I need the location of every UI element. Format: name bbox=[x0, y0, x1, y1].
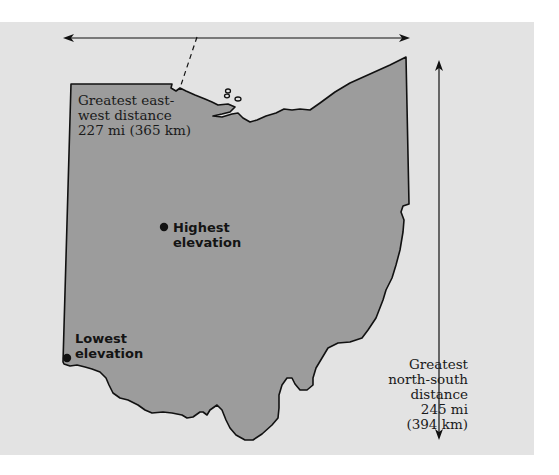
island-shape bbox=[225, 94, 230, 98]
lowest-label-line: Lowest bbox=[75, 331, 143, 346]
east-west-label-line: 227 mi (365 km) bbox=[78, 123, 191, 138]
island-shape bbox=[226, 89, 231, 93]
east-west-label-line: west distance bbox=[78, 108, 191, 123]
lowest-elevation-marker bbox=[63, 354, 71, 362]
east-west-arrow bbox=[63, 34, 410, 42]
north-south-label-line: 245 mi bbox=[388, 402, 468, 417]
dashed-boundary-line bbox=[180, 37, 197, 88]
north-south-label-line: Greatest bbox=[388, 357, 468, 372]
east-west-label-line: Greatest east- bbox=[78, 93, 191, 108]
ohio-map bbox=[0, 0, 559, 475]
highest-elevation-label: Highest elevation bbox=[173, 220, 241, 250]
north-south-label-line: (394 km) bbox=[388, 417, 468, 432]
island-shape bbox=[235, 97, 241, 101]
highest-label-line: elevation bbox=[173, 235, 241, 250]
highest-elevation-marker bbox=[160, 223, 168, 231]
north-south-label-line: distance bbox=[388, 387, 468, 402]
east-west-distance-label: Greatest east- west distance 227 mi (365… bbox=[78, 93, 191, 138]
lowest-label-line: elevation bbox=[75, 346, 143, 361]
north-south-distance-label: Greatest north-south distance 245 mi (39… bbox=[388, 357, 468, 432]
north-south-label-line: north-south bbox=[388, 372, 468, 387]
lowest-elevation-label: Lowest elevation bbox=[75, 331, 143, 361]
highest-label-line: Highest bbox=[173, 220, 241, 235]
